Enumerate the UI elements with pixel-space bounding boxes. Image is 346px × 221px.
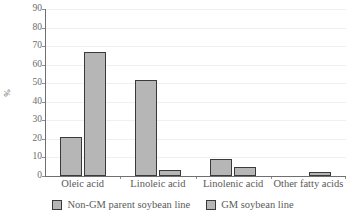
bar xyxy=(135,80,157,176)
legend-label: GM soybean line xyxy=(221,199,293,210)
legend-swatch-icon xyxy=(52,200,62,210)
legend-item: GM soybean line xyxy=(206,199,293,210)
legend-label: Non-GM parent soybean line xyxy=(67,199,190,210)
bar xyxy=(60,137,82,176)
bar xyxy=(84,52,106,176)
x-axis-category-label: Linolenic acid xyxy=(203,178,263,190)
legend-swatch-icon xyxy=(206,200,216,210)
chart-legend: Non-GM parent soybean lineGM soybean lin… xyxy=(0,199,346,210)
plot-area xyxy=(45,9,346,177)
bar xyxy=(234,167,256,176)
bar xyxy=(210,159,232,176)
bar-chart: % 0102030405060708090 Oleic acidLinoleic… xyxy=(0,0,346,221)
plot-wrapper: % 0102030405060708090 Oleic acidLinoleic… xyxy=(0,0,346,221)
bar xyxy=(159,170,181,176)
bar-series-group xyxy=(46,9,346,176)
bar xyxy=(309,172,331,176)
legend-item: Non-GM parent soybean line xyxy=(52,199,190,210)
x-axis-category-label: Linoleic acid xyxy=(130,178,185,190)
x-axis-category-labels: Oleic acidLinoleic acidLinolenic acidOth… xyxy=(45,178,346,192)
x-axis-category-label: Other fatty acids xyxy=(273,178,343,190)
x-axis-category-label: Oleic acid xyxy=(61,178,104,190)
